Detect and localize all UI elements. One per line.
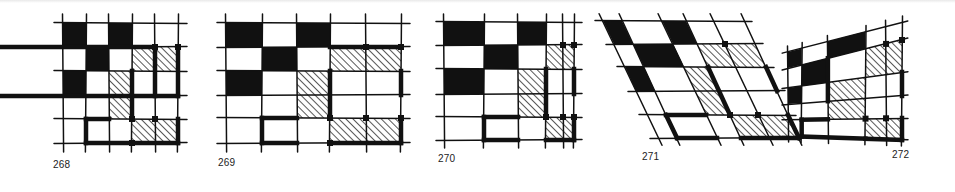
- hatched-cell: [546, 117, 563, 140]
- grid-line-horizontal: [217, 23, 410, 24]
- column-dot: [899, 37, 905, 43]
- black-cell: [86, 47, 109, 71]
- column-dot: [152, 116, 158, 122]
- column-dot: [863, 116, 869, 122]
- column-dot: [175, 44, 181, 50]
- column-dot: [152, 44, 158, 50]
- grid-line-horizontal: [217, 71, 410, 72]
- column-dot: [327, 115, 333, 121]
- column-dot: [129, 116, 135, 122]
- column-dot: [543, 114, 549, 120]
- column-dot: [327, 140, 333, 146]
- figure-label-269: 269: [218, 158, 235, 168]
- black-cell: [484, 45, 518, 69]
- grid-line-horizontal: [639, 115, 796, 116]
- column-dot: [571, 114, 577, 120]
- hatched-cell: [297, 71, 330, 95]
- thick-wall-edge: [802, 136, 866, 138]
- column-dot: [722, 41, 728, 47]
- hatched-cell: [518, 94, 546, 117]
- grid-line-horizontal: [217, 118, 410, 119]
- hatched-cell: [330, 47, 366, 71]
- column-dot: [363, 115, 369, 121]
- grid-line-horizontal: [436, 69, 582, 70]
- black-cell: [262, 47, 297, 71]
- thick-wall-edge: [666, 115, 677, 138]
- figure-label-271: 271: [642, 152, 659, 162]
- hatched-cell: [132, 47, 155, 71]
- hatched-cell: [155, 47, 178, 71]
- grid-line-horizontal: [54, 23, 187, 24]
- grid-line-horizontal: [595, 21, 752, 22]
- column-dot: [560, 42, 566, 48]
- column-dot: [571, 42, 577, 48]
- black-cell: [297, 23, 330, 47]
- figure-label-268: 268: [53, 160, 70, 170]
- grid-line-horizontal: [436, 22, 582, 23]
- column-dot: [398, 44, 404, 50]
- hatched-cell: [828, 77, 866, 101]
- figure-label-272: 272: [892, 150, 909, 160]
- black-cell: [788, 86, 802, 104]
- hatched-cell: [518, 69, 546, 94]
- black-cell: [633, 44, 684, 67]
- hatched-cell: [330, 118, 366, 143]
- black-cell: [63, 23, 86, 47]
- figure-270-grid: [436, 14, 582, 148]
- black-cell: [226, 71, 262, 95]
- figure-label-270: 270: [438, 154, 455, 164]
- diagram-canvas: [0, 0, 955, 192]
- column-dot: [560, 114, 566, 120]
- hatched-cell: [563, 45, 574, 69]
- black-cell: [226, 23, 262, 47]
- grid-line-horizontal: [617, 67, 774, 68]
- thick-wall-edge: [866, 139, 902, 140]
- hatched-cell: [155, 119, 178, 143]
- hatched-cell: [886, 118, 902, 140]
- column-dot: [363, 44, 369, 50]
- hatched-cell: [366, 47, 401, 71]
- column-dot: [755, 112, 761, 118]
- black-cell: [63, 71, 86, 96]
- grid-line-vertical: [599, 14, 662, 145]
- black-cell: [444, 22, 484, 45]
- hatched-cell: [866, 44, 887, 77]
- column-dot: [129, 140, 135, 146]
- hatched-cell: [297, 95, 330, 118]
- column-dot: [883, 115, 889, 121]
- hatched-cell: [866, 118, 887, 139]
- figure-269-grid: [217, 14, 410, 152]
- hatched-cell: [366, 118, 401, 143]
- hatched-cell: [546, 45, 563, 69]
- figure-268-grid: [0, 14, 187, 152]
- figure-272-perspective-grid: [782, 16, 908, 146]
- column-dot: [398, 115, 404, 121]
- black-cell: [518, 22, 546, 45]
- thick-wall-edge: [766, 67, 777, 91]
- grid-line-horizontal: [54, 119, 187, 120]
- black-cell: [109, 23, 132, 47]
- column-dot: [883, 41, 889, 47]
- black-cell: [444, 69, 484, 94]
- grid-line-horizontal: [54, 71, 187, 72]
- hatched-cell: [109, 71, 132, 96]
- column-dot: [727, 112, 733, 118]
- figure-271-skewed-grid: [595, 14, 807, 145]
- hatched-cell: [132, 119, 155, 143]
- hatched-cell: [109, 96, 132, 119]
